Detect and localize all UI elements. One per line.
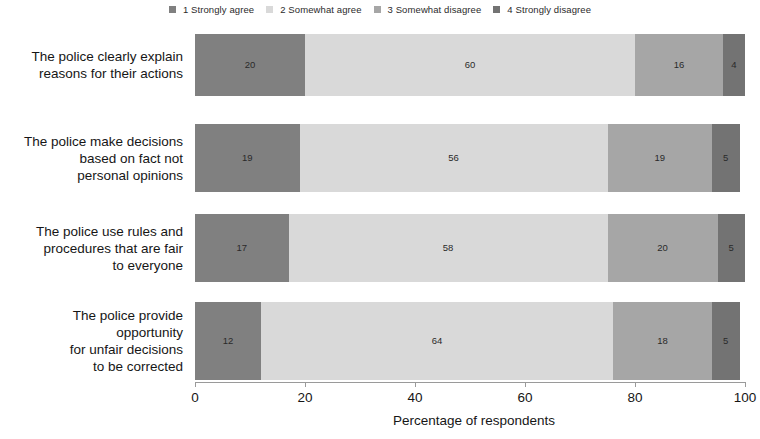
- legend-entry[interactable]: 2 Somewhat agree: [266, 4, 361, 15]
- bar-segment[interactable]: 5: [712, 302, 740, 380]
- bar-row[interactable]: 1758205: [195, 214, 745, 282]
- category-label-line: to be corrected: [0, 358, 183, 375]
- bar-row[interactable]: 1956195: [195, 124, 745, 192]
- stacked-bar-chart: 1 Strongly agree2 Somewhat agree3 Somewh…: [0, 0, 760, 439]
- bar-segment[interactable]: 58: [289, 214, 608, 282]
- bar-segment[interactable]: 16: [635, 34, 723, 96]
- x-axis-tick-label: 40: [407, 390, 422, 405]
- x-axis-title: Percentage of respondents: [0, 413, 760, 428]
- bar-row[interactable]: 1264185: [195, 302, 745, 380]
- bar-segment-value: 16: [674, 60, 685, 70]
- bar-segment[interactable]: 20: [608, 214, 718, 282]
- bar-segment-value: 17: [236, 243, 247, 253]
- category-label: The police clearly explainreasons for th…: [0, 48, 183, 82]
- category-label-line: procedures that are fair: [0, 240, 183, 257]
- bar-segment[interactable]: 5: [718, 214, 746, 282]
- legend-entry[interactable]: 1 Strongly agree: [169, 4, 254, 15]
- category-label-line: reasons for their actions: [0, 65, 183, 82]
- legend-entry[interactable]: 4 Strongly disagree: [493, 4, 591, 15]
- bar-segment[interactable]: 4: [723, 34, 745, 96]
- x-axis-tick: [195, 382, 196, 387]
- bar-segment-value: 5: [723, 153, 728, 163]
- legend-entry[interactable]: 3 Somewhat disagree: [374, 4, 482, 15]
- x-axis-tick: [415, 382, 416, 387]
- x-axis-title-text: Percentage of respondents: [205, 413, 555, 428]
- bar-segment-value: 18: [657, 336, 668, 346]
- x-axis-line: [195, 382, 746, 383]
- x-axis-tick: [745, 382, 746, 387]
- bar-segment-value: 60: [465, 60, 476, 70]
- legend-swatch-icon: [169, 6, 176, 13]
- legend-label: 4 Strongly disagree: [507, 4, 591, 15]
- bar-segment[interactable]: 19: [608, 124, 713, 192]
- legend-label: 3 Somewhat disagree: [388, 4, 482, 15]
- category-label-line: to everyone: [0, 257, 183, 274]
- category-label: The police use rules andprocedures that …: [0, 223, 183, 274]
- category-label-line: based on fact not: [0, 150, 183, 167]
- category-label-line: The police make decisions: [0, 133, 183, 150]
- bar-segment-value: 5: [723, 336, 728, 346]
- bar-segment[interactable]: 18: [613, 302, 712, 380]
- bar-segment-value: 64: [432, 336, 443, 346]
- bar-segment[interactable]: 56: [300, 124, 608, 192]
- x-axis-tick-label: 80: [627, 390, 642, 405]
- bar-segment[interactable]: 64: [261, 302, 613, 380]
- bar-segment[interactable]: 12: [195, 302, 261, 380]
- x-axis-tick-label: 60: [517, 390, 532, 405]
- legend-swatch-icon: [266, 6, 273, 13]
- x-axis-tick-label: 0: [191, 390, 199, 405]
- x-axis-tick-label: 20: [297, 390, 312, 405]
- bar-segment-value: 12: [223, 336, 234, 346]
- category-label-line: for unfair decisions: [0, 341, 183, 358]
- category-label-line: The police use rules and: [0, 223, 183, 240]
- bar-segment-value: 19: [242, 153, 253, 163]
- bar-segment[interactable]: 17: [195, 214, 289, 282]
- chart-legend: 1 Strongly agree2 Somewhat agree3 Somewh…: [0, 4, 760, 15]
- x-axis-tick: [525, 382, 526, 387]
- x-axis-tick: [635, 382, 636, 387]
- legend-swatch-icon: [374, 6, 381, 13]
- bar-segment[interactable]: 5: [712, 124, 740, 192]
- plot-area: 2060164195619517582051264185: [195, 30, 745, 382]
- category-label-line: personal opinions: [0, 167, 183, 184]
- bar-segment-value: 56: [448, 153, 459, 163]
- legend-label: 2 Somewhat agree: [280, 4, 361, 15]
- category-label-line: opportunity: [0, 324, 183, 341]
- category-label-line: The police clearly explain: [0, 48, 183, 65]
- category-label-line: The police provide: [0, 307, 183, 324]
- bar-segment[interactable]: 19: [195, 124, 300, 192]
- legend-label: 1 Strongly agree: [183, 4, 254, 15]
- category-label: The police provideopportunityfor unfair …: [0, 307, 183, 375]
- bar-segment[interactable]: 20: [195, 34, 305, 96]
- bar-segment-value: 19: [654, 153, 665, 163]
- category-label: The police make decisionsbased on fact n…: [0, 133, 183, 184]
- bar-row[interactable]: 2060164: [195, 34, 745, 96]
- bar-segment-value: 5: [729, 243, 734, 253]
- bar-segment[interactable]: 60: [305, 34, 635, 96]
- bar-segment-value: 20: [245, 60, 256, 70]
- bar-segment-value: 20: [657, 243, 668, 253]
- bar-segment-value: 58: [443, 243, 454, 253]
- bar-segment-value: 4: [731, 60, 736, 70]
- legend-swatch-icon: [493, 6, 500, 13]
- x-axis-tick-label: 100: [734, 390, 757, 405]
- x-axis-tick: [305, 382, 306, 387]
